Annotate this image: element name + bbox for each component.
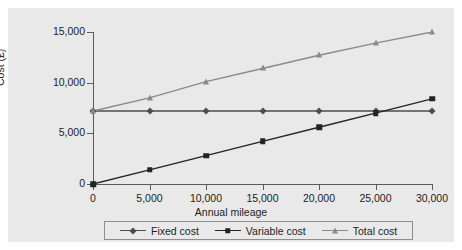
y-tick-label: 5,000 <box>25 126 85 138</box>
x-tick-mark <box>376 184 377 190</box>
legend-item[interactable]: Total cost <box>322 225 397 237</box>
data-point-marker <box>429 96 435 102</box>
data-point-marker <box>203 153 209 159</box>
data-point-marker <box>90 181 96 187</box>
legend-marker-icon <box>332 227 338 233</box>
legend-swatch-icon <box>120 230 146 232</box>
data-point-marker <box>373 40 379 46</box>
chart-legend: Fixed costVariable costTotal cost <box>104 221 413 240</box>
plot-area <box>93 32 432 184</box>
data-point-marker <box>90 107 96 113</box>
data-point-marker <box>316 125 322 131</box>
legend-item-label: Total cost <box>353 225 397 237</box>
legend-item[interactable]: Variable cost <box>215 225 306 237</box>
legend-marker-icon <box>129 227 136 234</box>
data-point-marker <box>147 167 153 173</box>
legend-item-label: Variable cost <box>246 225 306 237</box>
y-tick-label: 15,000 <box>25 25 85 37</box>
data-point-marker <box>203 78 209 84</box>
data-point-marker <box>147 94 153 100</box>
legend-item-label: Fixed cost <box>151 225 199 237</box>
data-point-marker <box>260 139 266 145</box>
y-tick-label: 10,000 <box>25 76 85 88</box>
x-tick-mark <box>432 184 433 190</box>
legend-item[interactable]: Fixed cost <box>120 225 199 237</box>
x-tick-mark <box>150 184 151 190</box>
y-axis-title: Cost (£) <box>0 49 6 86</box>
x-tick-mark <box>263 184 264 190</box>
x-tick-label: 30,000 <box>397 192 462 204</box>
legend-swatch-icon <box>215 230 241 232</box>
x-tick-mark <box>206 184 207 190</box>
data-point-marker <box>316 52 322 58</box>
x-tick-mark <box>319 184 320 190</box>
data-point-marker <box>373 110 379 116</box>
legend-marker-icon <box>225 228 231 234</box>
series-line <box>93 32 432 111</box>
chart-figure: Cost (£) 05,00010,00015,000 05,00010,000… <box>8 8 454 242</box>
data-point-marker <box>260 65 266 71</box>
x-axis-title: Annual mileage <box>8 206 454 218</box>
data-point-marker <box>429 28 435 34</box>
y-tick-label: 0 <box>25 177 85 189</box>
legend-swatch-icon <box>322 230 348 232</box>
